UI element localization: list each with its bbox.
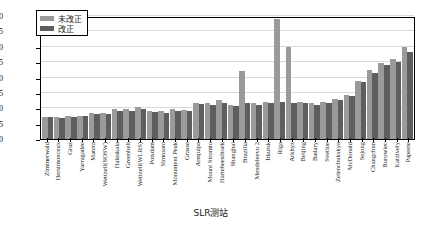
legend: 未改正 改正: [36, 10, 88, 36]
x-tick-label: Matera: [90, 142, 97, 161]
y-tick-mark: [36, 79, 40, 80]
x-tick: Brazilia: [239, 142, 251, 204]
bar: [361, 82, 367, 139]
x-tick-label: Hartebeesthoek: [218, 142, 225, 183]
x-tick: Greenbelt: [123, 142, 135, 204]
bar-group: [239, 18, 251, 139]
bar: [396, 62, 402, 139]
y-tick-label: 40: [0, 13, 3, 21]
x-tick-label: Riga: [277, 142, 284, 154]
y-tick-label: 15: [0, 90, 3, 98]
bar: [222, 103, 228, 139]
x-tick: Arequipa: [193, 142, 205, 204]
x-tick-label: Monument Peak: [172, 142, 179, 185]
bar-group: [367, 18, 379, 139]
x-tick-label: Mendeleevo 2: [253, 142, 260, 180]
x-tick: Svetloe: [321, 142, 333, 204]
bar: [314, 105, 320, 139]
bar: [83, 116, 89, 139]
y-tick-mark: [36, 109, 40, 110]
bar-group: [42, 18, 54, 139]
x-tick-label: Potsdam: [148, 142, 155, 165]
bar-group: [146, 18, 158, 139]
y-tick-label: 5: [0, 121, 3, 129]
bar-group: [285, 18, 297, 139]
x-axis-title: SLR测站: [0, 206, 422, 219]
legend-item-uncorrected: 未改正: [40, 13, 82, 23]
bar: [210, 105, 216, 139]
bar-group: [88, 18, 100, 139]
bar: [303, 103, 309, 139]
x-tick: Hartebeesthoek: [216, 142, 228, 204]
legend-item-corrected: 改正: [40, 23, 82, 33]
chart-figure: 0510152025303540 残差/mm ZimmerwaldHerstmo…: [0, 0, 422, 244]
bar-group: [65, 18, 77, 139]
bar: [129, 111, 135, 139]
bar-group: [204, 18, 216, 139]
x-tick-label: Mount Stromlo: [207, 142, 214, 182]
x-tick-label: Greenbelt: [125, 142, 132, 168]
bar-group: [390, 18, 402, 139]
y-tick-mark: [36, 125, 40, 126]
bar-group: [54, 18, 66, 139]
bar: [48, 117, 54, 139]
bar-group: [112, 18, 124, 139]
bar-group: [216, 18, 228, 139]
bar: [199, 104, 205, 139]
bar-group: [170, 18, 182, 139]
x-tick: Simosato: [158, 142, 170, 204]
x-tick: Herstmonceux: [53, 142, 65, 204]
x-tick-label: Arequipa: [195, 142, 202, 167]
bar: [71, 117, 77, 139]
x-tick-label: Svetloe: [323, 142, 330, 162]
x-tick-label: Herstmonceux: [55, 142, 62, 180]
x-tick-label: Borowiec: [382, 142, 389, 168]
x-tick-label: Katzively: [393, 142, 400, 168]
y-tick-mark: [36, 94, 40, 95]
x-tick: Badary: [309, 142, 321, 204]
x-tick: Yarragadee: [76, 142, 88, 204]
bar: [175, 111, 181, 139]
x-tick: Riga: [274, 142, 286, 204]
y-tick-mark: [36, 48, 40, 49]
x-tick-label: Shanghai: [230, 142, 237, 167]
x-tick-label: Yarragadee: [79, 142, 86, 172]
legend-label-corrected: 改正: [58, 23, 74, 34]
x-tick: Wettzell(WLRS): [134, 142, 146, 204]
x-tick-label: Wettzell(SOSW): [102, 142, 109, 187]
legend-swatch-uncorrected: [40, 16, 54, 21]
x-tick-label: Badary: [312, 142, 319, 161]
bar-group: [251, 18, 263, 139]
bar-group: [355, 18, 367, 139]
x-tick-label: Zimmerwald: [44, 142, 51, 176]
x-tick: McDonald: [344, 142, 356, 204]
x-tick-label: Wettzell(WLRS): [137, 142, 144, 187]
x-tick: Haleakala: [111, 142, 123, 204]
bar: [291, 103, 297, 139]
bar-group: [320, 18, 332, 139]
x-tick-label: Grasse: [183, 142, 190, 160]
bar-group: [77, 18, 89, 139]
x-tick: Beijing: [297, 142, 309, 204]
x-tick-label: Changchun: [370, 142, 377, 172]
x-axis-tick-labels: ZimmerwaldHerstmonceuxGrazYarragadeeMate…: [40, 142, 415, 204]
legend-swatch-corrected: [40, 26, 54, 31]
bar: [187, 111, 193, 139]
bar: [280, 102, 286, 139]
bar: [268, 103, 274, 139]
x-tick: Grasse: [181, 142, 193, 204]
x-tick: Arkhyz: [286, 142, 298, 204]
bar-group: [123, 18, 135, 139]
bar: [349, 96, 355, 139]
bar-group: [100, 18, 112, 139]
bar-group: [297, 18, 309, 139]
x-tick: Zimmerwald: [41, 142, 53, 204]
bar: [407, 52, 413, 139]
bar-group: [343, 18, 355, 139]
bar: [233, 106, 239, 139]
x-tick: Mendeleevo 2: [251, 142, 263, 204]
y-tick-label: 35: [0, 28, 3, 36]
x-tick-label: Brazilia: [242, 142, 249, 163]
x-tick: Changchun: [367, 142, 379, 204]
x-tick-label: McDonald: [347, 142, 354, 170]
